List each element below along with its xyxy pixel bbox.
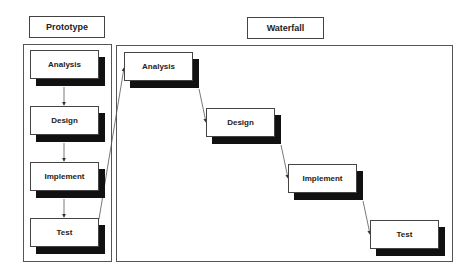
prototype-step-design: Design xyxy=(30,106,99,135)
step-label: Test xyxy=(370,220,439,249)
prototype-step-test: Test xyxy=(30,218,99,247)
step-label: Analysis xyxy=(124,52,193,81)
waterfall-step-design: Design xyxy=(206,108,275,137)
step-label: Test xyxy=(30,218,99,247)
step-label: Analysis xyxy=(30,50,99,79)
prototype-step-implement: Implement xyxy=(30,162,99,191)
waterfall-step-test: Test xyxy=(370,220,439,249)
waterfall-step-implement: Implement xyxy=(288,164,357,193)
step-label: Design xyxy=(206,108,275,137)
waterfall-step-analysis: Analysis xyxy=(124,52,193,81)
step-label: Design xyxy=(30,106,99,135)
waterfall-title: Waterfall xyxy=(247,17,324,39)
prototype-title: Prototype xyxy=(29,16,105,38)
step-label: Implement xyxy=(288,164,357,193)
prototype-step-analysis: Analysis xyxy=(30,50,99,79)
step-label: Implement xyxy=(30,162,99,191)
